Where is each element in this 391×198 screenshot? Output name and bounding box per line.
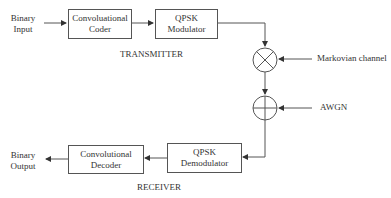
demodulator-line2: Demodulator	[181, 158, 229, 169]
coder-line1: Convoluational	[72, 13, 128, 24]
binary-output-line2: Output	[6, 161, 40, 172]
convolutional-decoder-block: Convolutional Decoder	[68, 145, 144, 174]
binary-output-line1: Binary	[6, 150, 40, 161]
coder-line2: Coder	[89, 24, 111, 35]
decoder-line2: Decoder	[91, 160, 121, 171]
demodulator-line1: QPSK	[193, 147, 216, 158]
binary-input-line2: Input	[6, 24, 40, 35]
binary-output-label: Binary Output	[6, 150, 40, 172]
arrow-adder-to-demodulator	[243, 120, 265, 157]
binary-input-line1: Binary	[6, 13, 40, 24]
markovian-channel-label: Markovian channel	[317, 53, 387, 64]
arrow-modulator-to-multiplier	[217, 23, 265, 46]
qpsk-demodulator-block: QPSK Demodulator	[167, 143, 242, 173]
transmitter-section-label: TRANSMITTER	[120, 49, 183, 59]
binary-input-label: Binary Input	[6, 13, 40, 35]
qpsk-modulator-block: QPSK Modulator	[155, 9, 218, 39]
decoder-line1: Convolutional	[80, 149, 132, 160]
receiver-section-label: RECEIVER	[137, 182, 181, 192]
modulator-line1: QPSK	[175, 13, 198, 24]
awgn-label: AWGN	[320, 102, 347, 113]
convolutional-coder-block: Convoluational Coder	[68, 9, 132, 39]
modulator-line2: Modulator	[168, 24, 206, 35]
